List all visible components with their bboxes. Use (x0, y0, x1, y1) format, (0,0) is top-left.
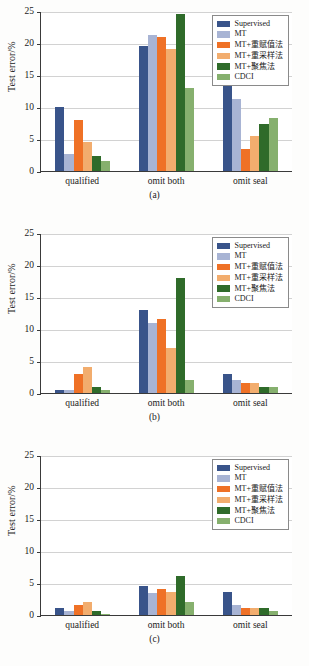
bar (92, 156, 101, 171)
bar (74, 374, 83, 393)
y-axis-tick-label: 25 (25, 7, 35, 17)
bar (241, 608, 250, 615)
x-axis-tick-labels: qualifiedomit bothomit seal (41, 620, 292, 630)
bar (176, 278, 185, 393)
legend-item: CDCI (217, 516, 283, 526)
chart-panel-c: Test error/%0510152025qualifiedomit both… (0, 444, 309, 666)
bar (101, 161, 110, 171)
bar (269, 118, 278, 171)
bar (157, 37, 166, 171)
y-axis-tick-label: 10 (25, 547, 35, 557)
bar (232, 380, 241, 393)
legend-color-swatch (217, 74, 230, 81)
y-axis-tick-label: 10 (25, 103, 35, 113)
bar (232, 605, 241, 615)
y-axis-tick-mark (37, 394, 41, 395)
legend: SupervisedMTMT+重赋值法MT+重采样法MT+聚焦法CDCI (212, 459, 289, 530)
legend-item: MT (217, 30, 283, 40)
panel-caption: (a) (0, 190, 309, 200)
legend-item: Supervised (217, 463, 283, 473)
legend-color-swatch (217, 63, 230, 70)
legend-label: MT (234, 252, 246, 260)
bar (232, 99, 241, 171)
x-axis-tick-label: omit seal (233, 176, 268, 186)
y-axis-tick-label: 25 (25, 229, 35, 239)
x-axis-tick-label: omit seal (233, 398, 268, 408)
y-axis-tick-label: 15 (25, 515, 35, 525)
bar (157, 319, 166, 393)
plot-area-wrapper: 0510152025qualifiedomit bothomit sealSup… (40, 456, 292, 616)
bar (241, 383, 250, 393)
bar (241, 149, 250, 171)
bar-group (55, 234, 110, 393)
legend-label: MT+重采样法 (234, 274, 283, 282)
legend-color-swatch (217, 53, 230, 60)
legend-color-swatch (217, 243, 230, 250)
legend-label: CDCI (234, 517, 253, 525)
bar (148, 323, 157, 393)
legend-color-swatch (217, 507, 230, 514)
bar (55, 107, 64, 171)
legend-item: MT+聚焦法 (217, 284, 283, 294)
x-axis-tick-label: qualified (65, 398, 99, 408)
bar (139, 46, 148, 171)
y-axis-tick-label: 5 (29, 135, 34, 145)
legend-color-swatch (217, 465, 230, 472)
bar (83, 142, 92, 171)
y-axis-tick-label: 20 (25, 261, 35, 271)
legend-item: MT+重赋值法 (217, 262, 283, 272)
plot-area-wrapper: 0510152025qualifiedomit bothomit sealSup… (40, 12, 292, 172)
legend-label: MT+重赋值法 (234, 263, 283, 271)
bar (176, 576, 185, 615)
bar (259, 124, 268, 171)
bar-group (139, 234, 194, 393)
legend-item: MT (217, 252, 283, 262)
x-axis-tick-label: omit seal (233, 620, 268, 630)
y-axis-tick-mark (37, 172, 41, 173)
legend-item: MT+聚焦法 (217, 506, 283, 516)
legend: SupervisedMTMT+重赋值法MT+重采样法MT+聚焦法CDCI (212, 15, 289, 86)
bar (101, 390, 110, 393)
legend-label: Supervised (234, 20, 270, 28)
x-axis-tick-labels: qualifiedomit bothomit seal (41, 398, 292, 408)
plot-area-wrapper: 0510152025qualifiedomit bothomit sealSup… (40, 234, 292, 394)
legend-item: Supervised (217, 19, 283, 29)
panel-caption: (c) (0, 634, 309, 644)
bar (74, 120, 83, 171)
legend-label: Supervised (234, 464, 270, 472)
y-axis-tick-label: 10 (25, 325, 35, 335)
x-axis-tick-label: omit both (148, 398, 185, 408)
bar (64, 611, 73, 615)
bar (139, 310, 148, 393)
bar-group (139, 12, 194, 171)
legend-item: MT+重采样法 (217, 51, 283, 61)
y-axis-tick-label: 25 (25, 451, 35, 461)
bar (259, 608, 268, 615)
bar (139, 586, 148, 615)
figure-three-panel-bar-charts: Test error/%0510152025qualifiedomit both… (0, 0, 309, 666)
legend-item: MT+重赋值法 (217, 40, 283, 50)
bar (55, 608, 64, 615)
legend-color-swatch (217, 275, 230, 282)
bar (185, 88, 194, 171)
bar (223, 374, 232, 393)
bar (55, 390, 64, 393)
bar-group (139, 456, 194, 615)
x-axis-tick-label: omit both (148, 176, 185, 186)
bar (269, 611, 278, 615)
bar (166, 348, 175, 393)
y-axis-tick-mark (37, 616, 41, 617)
y-axis-tick-label: 0 (29, 167, 34, 177)
legend-item: CDCI (217, 294, 283, 304)
legend-label: MT (234, 30, 246, 38)
bar (223, 592, 232, 615)
x-axis-tick-label: qualified (65, 620, 99, 630)
bar (148, 35, 157, 171)
bar (92, 387, 101, 393)
bar (166, 49, 175, 171)
bar (250, 136, 259, 171)
bar (64, 390, 73, 393)
legend-item: Supervised (217, 241, 283, 251)
legend-color-swatch (217, 285, 230, 292)
legend-color-swatch (217, 31, 230, 38)
